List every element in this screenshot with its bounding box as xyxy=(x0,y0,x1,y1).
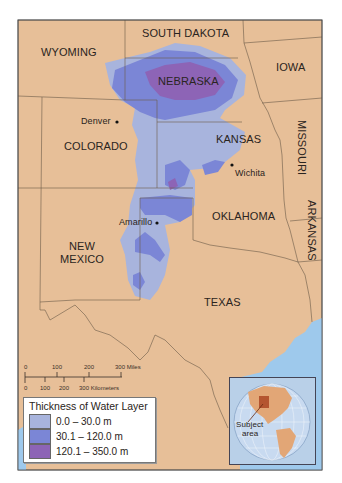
legend-swatch-medium xyxy=(29,429,51,444)
inset-label-subject: Subject xyxy=(236,420,263,429)
city-label-denver: Denver xyxy=(81,116,111,126)
city-label-amarillo: Amarillo xyxy=(119,217,152,227)
scale-km-0: 0 xyxy=(24,385,27,391)
legend-swatch-thick xyxy=(29,444,51,459)
subject-area-highlight xyxy=(259,396,269,408)
state-label-texas: TEXAS xyxy=(204,296,241,308)
legend-title: Thickness of Water Layer xyxy=(29,400,148,412)
state-label-mexico: MEXICO xyxy=(60,253,104,265)
scale-miles-0: 0 xyxy=(24,364,27,370)
legend-label-thick: 120.1 – 350.0 m xyxy=(56,446,128,457)
state-label-nebraska: NEBRASKA xyxy=(158,75,219,87)
scale-km-300: 300 Kilometers xyxy=(79,385,119,391)
scale-miles-200: 200 xyxy=(84,364,94,370)
wichita-dot xyxy=(230,163,233,166)
state-label-new: NEW xyxy=(69,240,95,252)
legend-label-medium: 30.1 – 120.0 m xyxy=(56,431,123,442)
denver-dot xyxy=(115,120,118,123)
legend-item-thin: 0.0 – 30.0 m xyxy=(29,414,112,429)
legend-item-medium: 30.1 – 120.0 m xyxy=(29,429,123,444)
scale-km-100: 100 xyxy=(40,385,50,391)
state-label-missouri: MISSOURI xyxy=(296,120,308,175)
state-label-colorado: COLORADO xyxy=(64,140,128,152)
city-label-wichita: Wichita xyxy=(235,168,265,178)
legend-label-thin: 0.0 – 30.0 m xyxy=(56,416,112,427)
state-label-iowa: IOWA xyxy=(276,61,305,73)
state-label-kansas: KANSAS xyxy=(216,133,261,145)
inset-globe-map: Subject area xyxy=(229,377,316,465)
legend-item-thick: 120.1 – 350.0 m xyxy=(29,444,128,459)
state-label-wyoming: WYOMING xyxy=(41,46,97,58)
state-label-south-dakota: SOUTH DAKOTA xyxy=(142,27,229,39)
scale-miles-300: 300 Miles xyxy=(115,364,141,370)
legend-box: Thickness of Water Layer 0.0 – 30.0 m 30… xyxy=(23,397,156,463)
legend-swatch-thin xyxy=(29,414,51,429)
inset-label-area: area xyxy=(242,429,258,438)
amarillo-dot xyxy=(155,221,158,224)
state-label-oklahoma: OKLAHOMA xyxy=(212,210,275,222)
scale-km-200: 200 xyxy=(59,385,69,391)
scale-miles-100: 100 xyxy=(52,364,62,370)
state-label-arkansas: ARKANSAS xyxy=(306,200,318,261)
